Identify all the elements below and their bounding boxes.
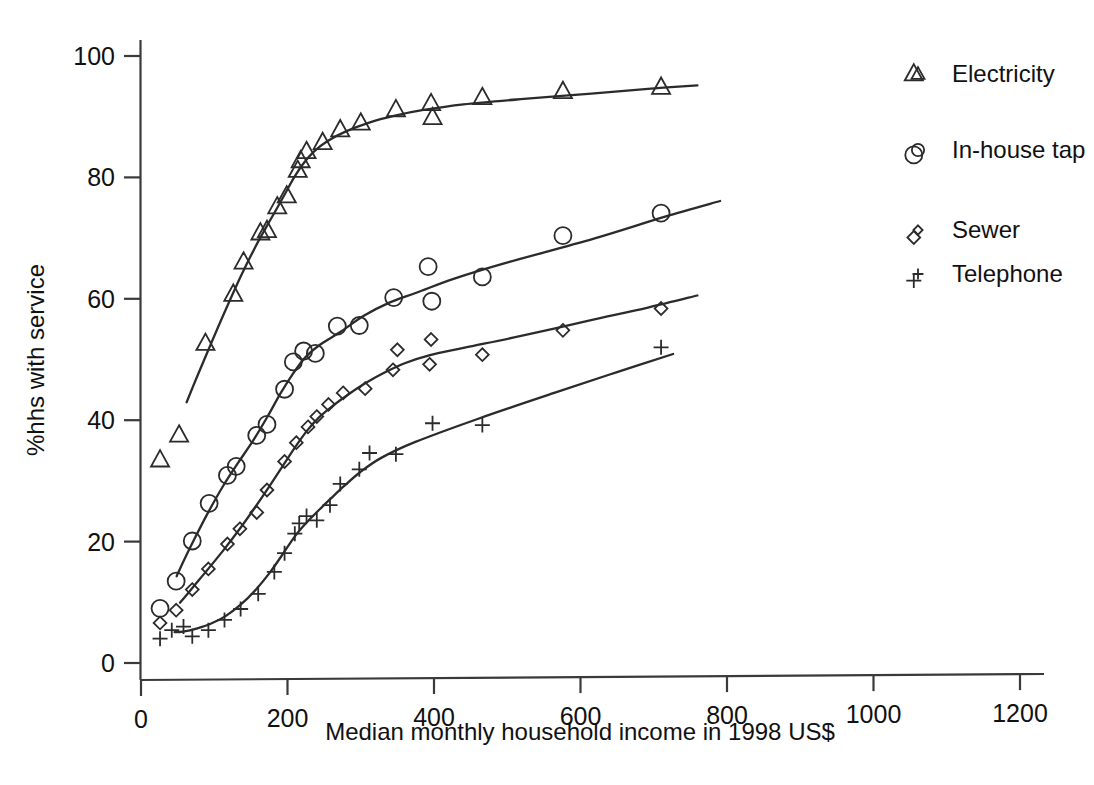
marker-diamond	[154, 617, 167, 630]
marker-diamond	[425, 333, 438, 346]
x-axis-title: Median monthly household income in 1998 …	[325, 718, 835, 745]
marker-plus	[153, 631, 168, 646]
series-trend-line	[177, 201, 720, 576]
circle-icon	[329, 318, 346, 335]
y-tick-label-100: 100	[73, 42, 115, 70]
triangle-up-icon	[235, 252, 253, 268]
circle-icon	[276, 381, 293, 398]
series-sewer	[154, 231, 921, 629]
marker-triangle-up	[268, 197, 286, 213]
plus-icon	[425, 416, 440, 431]
y-tick-label-40: 40	[87, 406, 115, 434]
marker-plus	[322, 498, 337, 513]
marker-plus	[906, 273, 921, 288]
marker-plus	[299, 509, 314, 524]
marker-circle	[276, 381, 293, 398]
marker-plus	[362, 445, 377, 460]
diamond-icon	[170, 604, 183, 617]
y-tick-label-60: 60	[87, 285, 115, 313]
plus-icon	[299, 509, 314, 524]
plus-icon	[322, 498, 337, 513]
marker-triangle-up	[170, 425, 188, 441]
circle-icon	[423, 293, 440, 310]
x-tick-label-0: 0	[134, 705, 148, 733]
axis-tick-labels: 020406080100020040060080010001200	[73, 42, 1048, 733]
plus-icon	[201, 623, 216, 638]
x-axis-line	[141, 674, 1045, 680]
circle-icon	[912, 144, 924, 156]
y-tick-label-0: 0	[101, 649, 115, 677]
diamond-icon	[907, 231, 920, 244]
marker-diamond	[391, 343, 404, 356]
diamond-icon	[423, 358, 436, 371]
y-tick-label-80: 80	[87, 163, 115, 191]
axes	[141, 40, 1045, 680]
marker-circle	[912, 144, 924, 156]
series-electricity	[151, 64, 923, 466]
plus-icon	[267, 564, 282, 579]
plus-icon	[906, 273, 921, 288]
marker-circle	[554, 227, 571, 244]
circle-icon	[420, 258, 437, 275]
marker-circle	[295, 343, 312, 360]
legend-label-0: Electricity	[952, 60, 1055, 87]
marker-circle	[474, 268, 491, 285]
triangle-up-icon	[652, 77, 670, 93]
plus-icon	[233, 601, 248, 616]
marker-plus	[233, 601, 248, 616]
marker-circle	[420, 258, 437, 275]
marker-plus	[425, 416, 440, 431]
data-series	[151, 64, 923, 646]
marker-plus	[251, 586, 266, 601]
triangle-up-icon	[170, 425, 188, 441]
marker-plus	[267, 564, 282, 579]
plus-icon	[352, 462, 367, 477]
circle-icon	[474, 268, 491, 285]
marker-circle	[653, 205, 670, 222]
plus-icon	[362, 445, 377, 460]
plus-icon	[153, 631, 168, 646]
legend-item-in-house-tap: In-house tap	[912, 136, 1086, 163]
circle-icon	[152, 600, 169, 617]
marker-diamond	[476, 348, 489, 361]
y-axis-title: %hhs with service	[22, 264, 49, 456]
line-chart: 020406080100020040060080010001200 Electr…	[0, 0, 1094, 785]
marker-triangle-up	[652, 77, 670, 93]
diamond-icon	[154, 617, 167, 630]
circle-icon	[554, 227, 571, 244]
y-tick-label-20: 20	[87, 528, 115, 556]
marker-circle	[152, 600, 169, 617]
series-trend-line	[180, 296, 697, 603]
marker-plus	[352, 462, 367, 477]
plus-icon	[333, 476, 348, 491]
legend-item-electricity: Electricity	[912, 60, 1055, 87]
marker-plus	[309, 513, 324, 528]
marker-plus	[654, 340, 669, 355]
marker-triangle-up	[151, 450, 169, 466]
legend-item-telephone: Telephone	[913, 260, 1063, 287]
diamond-icon	[425, 333, 438, 346]
legend-label-1: In-house tap	[952, 136, 1085, 163]
marker-plus	[201, 623, 216, 638]
marker-diamond	[907, 231, 920, 244]
series-trend-line	[187, 85, 698, 402]
marker-diamond	[423, 358, 436, 371]
series-in-house-tap	[152, 146, 923, 616]
diamond-icon	[476, 348, 489, 361]
x-tick-label-1000: 1000	[846, 700, 902, 728]
plus-icon	[309, 513, 324, 528]
circle-icon	[295, 343, 312, 360]
chart-legend: ElectricityIn-house tapSewerTelephone	[912, 60, 1086, 287]
series-trend-line	[175, 354, 674, 632]
plus-icon	[164, 623, 179, 638]
circle-icon	[653, 205, 670, 222]
x-tick-label-1200: 1200	[992, 699, 1048, 727]
triangle-up-icon	[268, 197, 286, 213]
marker-triangle-up	[235, 252, 253, 268]
triangle-up-icon	[151, 450, 169, 466]
marker-diamond	[170, 604, 183, 617]
marker-plus	[164, 623, 179, 638]
marker-plus	[333, 476, 348, 491]
plus-icon	[251, 586, 266, 601]
legend-item-sewer: Sewer	[913, 216, 1020, 243]
